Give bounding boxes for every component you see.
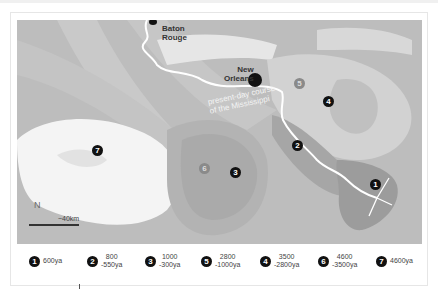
city-name-line2: Orleans — [224, 74, 254, 83]
legend-marker-icon: 5 — [201, 256, 212, 267]
city-label-new-orleans: New Orleans — [224, 65, 254, 83]
delta-lobes-map: Baton Rouge New Orleans present-day cour… — [17, 20, 422, 244]
legend-text: 4600ya — [390, 257, 413, 265]
legend-item-7: 7 4600ya — [376, 251, 413, 271]
lobe-marker-3: 3 — [230, 167, 241, 178]
lobe-marker-5: 5 — [294, 78, 305, 89]
lobe-marker-2: 2 — [292, 140, 303, 151]
legend-marker-icon: 4 — [260, 256, 271, 267]
map-graphic — [17, 20, 422, 244]
legend-text: 600ya — [43, 257, 62, 265]
north-indicator: N — [34, 200, 41, 210]
legend-line2: -3500ya — [332, 261, 357, 269]
legend-text: 800-550ya — [101, 253, 122, 269]
city-name-line1: New — [224, 65, 254, 74]
legend-line1: 3500 — [274, 253, 299, 261]
legend-marker-icon: 7 — [376, 256, 387, 267]
legend-line2: -550ya — [101, 261, 122, 269]
lobe-marker-4: 4 — [323, 96, 334, 107]
city-name-line2: Rouge — [162, 33, 187, 42]
legend-line1: 2800 — [215, 253, 240, 261]
scale-bar — [29, 224, 79, 226]
legend-line1: 4600ya — [390, 257, 413, 265]
legend-marker-icon: 3 — [145, 256, 156, 267]
bottom-tick-mark — [79, 284, 80, 289]
city-name-line1: Baton — [162, 24, 187, 33]
legend-line1: 4600 — [332, 253, 357, 261]
legend-line1: 800 — [101, 253, 122, 261]
legend-item-2: 2 800-550ya — [87, 251, 122, 271]
lobe-marker-6: 6 — [199, 163, 210, 174]
legend-text: 3500-2800ya — [274, 253, 299, 269]
legend-item-4: 4 3500-2800ya — [260, 251, 299, 271]
legend-item-5: 5 2800-1000ya — [201, 251, 240, 271]
legend-text: 4600-3500ya — [332, 253, 357, 269]
legend-line2: -300ya — [159, 261, 180, 269]
scale-label: ~40km — [58, 215, 79, 222]
legend-marker-icon: 2 — [87, 256, 98, 267]
legend-line2: -2800ya — [274, 261, 299, 269]
legend-item-1: 1 600ya — [29, 251, 62, 271]
legend-line2: -1000ya — [215, 261, 240, 269]
top-divider — [0, 0, 438, 3]
legend-marker-icon: 6 — [318, 256, 329, 267]
legend-line1: 600ya — [43, 257, 62, 265]
legend: 1 600ya 2 800-550ya 3 1000-300ya 5 2800-… — [27, 251, 422, 271]
legend-item-3: 3 1000-300ya — [145, 251, 180, 271]
lobe-marker-1: 1 — [370, 179, 381, 190]
legend-line1: 1000 — [159, 253, 180, 261]
legend-text: 1000-300ya — [159, 253, 180, 269]
legend-item-6: 6 4600-3500ya — [318, 251, 357, 271]
legend-marker-icon: 1 — [29, 256, 40, 267]
lobe-marker-7: 7 — [92, 145, 103, 156]
legend-text: 2800-1000ya — [215, 253, 240, 269]
city-label-baton-rouge: Baton Rouge — [162, 24, 187, 42]
